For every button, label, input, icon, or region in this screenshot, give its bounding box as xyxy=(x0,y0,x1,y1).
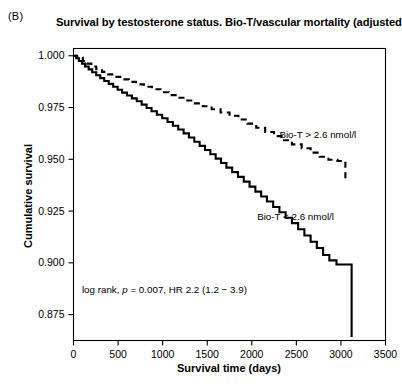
y-tick-label: 0.975 xyxy=(38,101,64,113)
chart-title: Survival by testosterone status. Bio-T/v… xyxy=(56,16,396,28)
curve-label: Bio-T > 2.6 nmol/l xyxy=(279,129,356,140)
survival-plot: 1.0000.9750.9500.9250.9000.875 050010001… xyxy=(0,0,402,386)
x-axis-title: Survival time (days) xyxy=(73,362,385,374)
x-tick-label: 3500 xyxy=(374,348,398,360)
curve-label: Bio-T < 2.6 nmol/l xyxy=(257,211,334,222)
log-rank-statistics: log rank, p = 0.007, HR 2.2 (1.2 − 3.9) xyxy=(82,284,247,295)
x-tick-label: 2000 xyxy=(240,348,264,360)
y-axis-title: Cumulative survival xyxy=(22,106,34,286)
x-tick-label: 1500 xyxy=(196,348,220,360)
y-tick-label: 1.000 xyxy=(38,49,64,61)
panel-label: (B) xyxy=(8,10,23,22)
x-tick-label: 2500 xyxy=(285,348,309,360)
axes-frame xyxy=(74,49,386,341)
x-tick-label: 0 xyxy=(71,348,77,360)
figure-panel-b: (B) Survival by testosterone status. Bio… xyxy=(0,0,402,386)
x-tick-label: 1000 xyxy=(151,348,175,360)
y-tick-label: 0.950 xyxy=(38,153,64,165)
plot-frame xyxy=(74,49,386,341)
y-axis-ticks: 1.0000.9750.9500.9250.9000.875 xyxy=(38,49,73,320)
survival-curve-high xyxy=(74,56,346,181)
x-tick-label: 500 xyxy=(109,348,127,360)
x-tick-label: 3000 xyxy=(329,348,353,360)
chart-annotations: log rank, p = 0.007, HR 2.2 (1.2 − 3.9) xyxy=(82,284,247,295)
x-axis-ticks: 0500100015002000250030003500 xyxy=(71,341,398,360)
y-tick-label: 0.875 xyxy=(38,308,64,320)
y-tick-label: 0.925 xyxy=(38,205,64,217)
curve-labels: Bio-T > 2.6 nmol/lBio-T < 2.6 nmol/l xyxy=(257,129,356,223)
y-tick-label: 0.900 xyxy=(38,256,64,268)
